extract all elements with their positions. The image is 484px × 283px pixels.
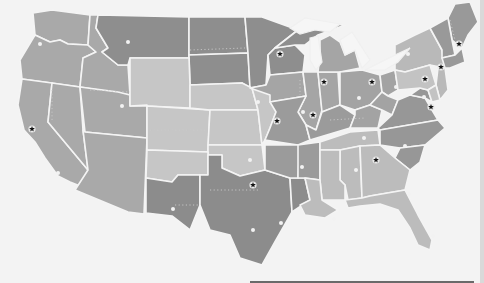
branch-dot-icon <box>171 207 175 211</box>
branch-dot-icon <box>394 85 398 89</box>
state-nebraska <box>190 83 258 110</box>
branch-dot-icon <box>300 165 304 169</box>
branch-dot-icon <box>251 228 255 232</box>
us-district-map <box>0 0 484 283</box>
branch-dot-icon <box>120 104 124 108</box>
branch-dot-icon <box>431 234 435 238</box>
branch-dot-icon <box>279 221 283 225</box>
state-colorado <box>147 106 210 152</box>
branch-dot-icon <box>126 40 130 44</box>
branch-dot-icon <box>332 217 336 221</box>
branch-dot-icon <box>362 136 366 140</box>
branch-dot-icon <box>403 144 407 148</box>
state-wisconsin <box>268 45 305 75</box>
branch-dot-icon <box>422 95 426 99</box>
branch-dot-icon <box>256 100 260 104</box>
branch-dot-icon <box>248 158 252 162</box>
branch-dot-icon <box>406 52 410 56</box>
branch-dot-icon <box>56 171 60 175</box>
state-kansas <box>208 110 262 145</box>
branch-dot-icon <box>357 96 361 100</box>
branch-dot-icon <box>38 42 42 46</box>
page-edge <box>480 0 484 283</box>
branch-dot-icon <box>354 168 358 172</box>
branch-dot-icon <box>407 192 411 196</box>
branch-dot-icon <box>301 110 305 114</box>
state-mississippi-north <box>298 142 320 180</box>
state-wyoming <box>130 58 190 108</box>
